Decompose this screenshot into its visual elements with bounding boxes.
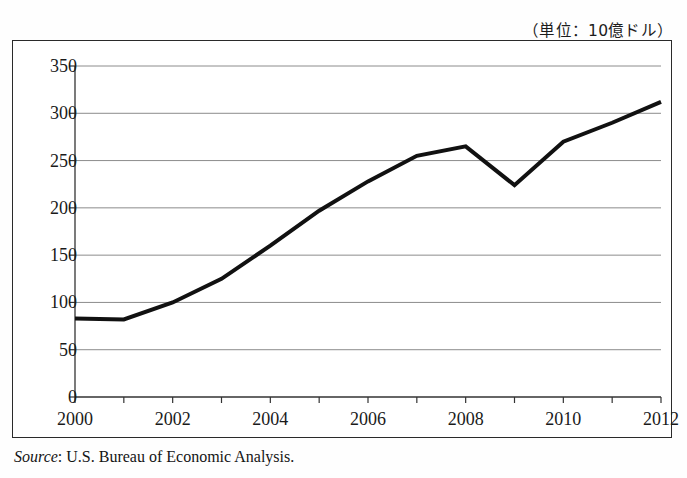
x-axis-tick-label: 2000	[57, 409, 93, 430]
unit-caption: （単位：10億ドル）	[523, 18, 673, 40]
source-note: Source: U.S. Bureau of Economic Analysis…	[14, 448, 294, 466]
chart-frame: 050100150200250300350 200020022004200620…	[12, 40, 672, 438]
plot-area: 050100150200250300350 200020022004200620…	[13, 41, 673, 439]
source-text: U.S. Bureau of Economic Analysis.	[66, 448, 294, 465]
x-axis-tick-labels: 2000200220042006200820102012	[13, 41, 673, 439]
x-axis-tick-label: 2006	[350, 409, 386, 430]
x-axis-tick-label: 2004	[252, 409, 288, 430]
x-axis-tick-label: 2010	[545, 409, 581, 430]
chart-page: （単位：10億ドル） 050100150200250300350 2000200…	[0, 0, 687, 478]
x-axis-tick-label: 2002	[155, 409, 191, 430]
x-axis-tick-label: 2008	[448, 409, 484, 430]
x-axis-tick-label: 2012	[643, 409, 679, 430]
source-label: Source	[14, 448, 58, 465]
